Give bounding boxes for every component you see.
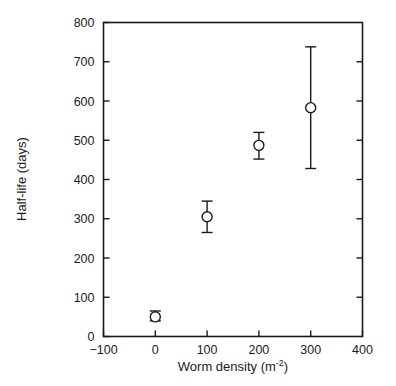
x-tick-label-200: 200 (248, 343, 269, 357)
y-axis-tick-labels: 0100200300400500600700800 (74, 16, 95, 344)
figure-background (0, 0, 396, 386)
y-tick-label-500: 500 (74, 134, 95, 148)
y-tick-label-800: 800 (74, 16, 95, 30)
x-tick-label-0: 0 (152, 343, 159, 357)
x-tick-label-100: 100 (197, 343, 218, 357)
y-tick-label-400: 400 (74, 173, 95, 187)
scatter-plot-figure: −1000100200300400 0100200300400500600700… (0, 0, 396, 386)
y-tick-label-100: 100 (74, 291, 95, 305)
marker-open-circle-3 (306, 103, 316, 113)
svg-text:Worm density (m-2): Worm density (m-2) (178, 358, 288, 374)
x-tick-label-300: 300 (300, 343, 321, 357)
y-tick-label-600: 600 (74, 95, 95, 109)
x-axis-title: Worm density (m-2) (178, 358, 288, 374)
x-tick-label--100: −100 (89, 343, 117, 357)
plot-canvas: −1000100200300400 0100200300400500600700… (0, 0, 396, 386)
x-tick-label-400: 400 (352, 343, 373, 357)
marker-open-circle-0 (150, 312, 160, 322)
marker-open-circle-2 (254, 140, 264, 150)
marker-open-circle-1 (202, 212, 212, 222)
y-axis-title: Half-life (days) (14, 137, 29, 221)
y-tick-label-200: 200 (74, 252, 95, 266)
svg-text:Half-life (days): Half-life (days) (14, 137, 29, 221)
y-tick-label-700: 700 (74, 55, 95, 69)
y-tick-label-300: 300 (74, 212, 95, 226)
y-tick-label-0: 0 (88, 330, 95, 344)
